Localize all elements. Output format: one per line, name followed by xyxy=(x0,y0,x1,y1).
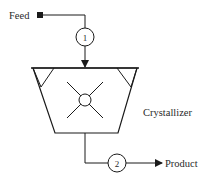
stream-2-label: 2 xyxy=(115,159,120,169)
crystallizer-vessel xyxy=(31,68,139,133)
stream-1-label: 1 xyxy=(83,33,88,43)
crystallizer-label: Crystallizer xyxy=(143,107,192,118)
product-label: Product xyxy=(165,158,198,169)
feed-label: Feed xyxy=(9,10,30,21)
stream-1-marker: 1 xyxy=(76,28,94,46)
stream-2-marker: 2 xyxy=(108,154,126,172)
crystallizer-process-diagram: Feed 1 xyxy=(0,0,208,187)
feed-source-marker xyxy=(37,12,43,18)
